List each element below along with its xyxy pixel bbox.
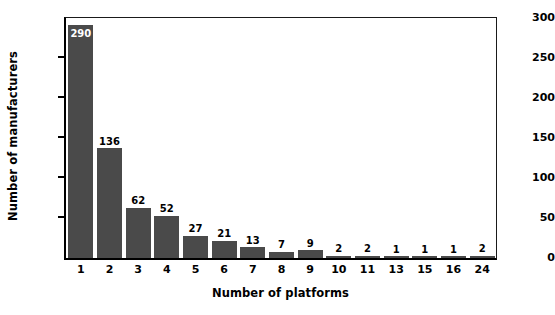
bar-slot: 21 <box>210 17 239 258</box>
bar[interactable] <box>126 208 151 258</box>
bar[interactable] <box>68 25 93 257</box>
x-tick-label-16: 16 <box>439 264 468 276</box>
bar-value-label: 62 <box>124 195 153 206</box>
x-tick-label-10: 10 <box>325 264 354 276</box>
bar-slot: 13 <box>239 17 268 258</box>
x-tick-label-6: 6 <box>210 264 239 276</box>
x-tick-label-5: 5 <box>181 264 210 276</box>
bar-value-label: 2 <box>353 243 382 254</box>
bar[interactable] <box>441 256 466 258</box>
bar[interactable] <box>326 256 351 258</box>
bar-slot: 7 <box>267 17 296 258</box>
x-tick-label-11: 11 <box>353 264 382 276</box>
y-tick-label-300: 300 <box>503 12 555 23</box>
bar-slot: 136 <box>95 17 124 258</box>
bar[interactable] <box>355 256 380 258</box>
plot-area: 290136625227211379221112 <box>67 17 497 258</box>
x-tick-label-2: 2 <box>95 264 124 276</box>
bar-slot: 1 <box>439 17 468 258</box>
bar[interactable] <box>384 256 409 258</box>
bar[interactable] <box>470 256 495 258</box>
bar-value-label: 290 <box>67 28 96 39</box>
y-tick-label-100: 100 <box>503 172 555 183</box>
x-axis-title: Number of platforms <box>64 286 497 300</box>
x-tick-label-24: 24 <box>468 264 497 276</box>
x-tick-label-1: 1 <box>67 264 96 276</box>
bar-slot: 62 <box>124 17 153 258</box>
bar[interactable] <box>183 236 208 258</box>
bar-chart-figure: Number of manufacturers Number of platfo… <box>0 0 555 315</box>
bar-value-label: 2 <box>325 243 354 254</box>
bar-value-label: 9 <box>296 238 325 249</box>
bar-value-label: 1 <box>382 244 411 255</box>
bar-value-label: 2 <box>468 243 497 254</box>
bar[interactable] <box>240 247 265 257</box>
bar[interactable] <box>97 148 122 257</box>
bar-value-label: 1 <box>411 244 440 255</box>
bar-value-label: 136 <box>95 136 124 147</box>
x-tick-label-3: 3 <box>124 264 153 276</box>
bar[interactable] <box>154 216 179 258</box>
y-tick-label-200: 200 <box>503 92 555 103</box>
x-tick-label-4: 4 <box>153 264 182 276</box>
bar-value-label: 13 <box>239 235 268 246</box>
bar-value-label: 27 <box>181 223 210 234</box>
y-tick-label-0: 0 <box>503 252 555 263</box>
bar-slot: 290 <box>67 17 96 258</box>
bar-slot: 9 <box>296 17 325 258</box>
bar[interactable] <box>269 252 294 258</box>
bar-slot: 52 <box>153 17 182 258</box>
bar[interactable] <box>298 250 323 257</box>
y-tick-label-50: 50 <box>503 212 555 223</box>
bar-slot: 2 <box>353 17 382 258</box>
x-tick-label-15: 15 <box>411 264 440 276</box>
x-tick-label-9: 9 <box>296 264 325 276</box>
bar-value-label: 1 <box>439 244 468 255</box>
x-tick-label-13: 13 <box>382 264 411 276</box>
bar-slot: 1 <box>411 17 440 258</box>
x-tick-label-7: 7 <box>239 264 268 276</box>
bar-value-label: 52 <box>153 203 182 214</box>
bar-slot: 1 <box>382 17 411 258</box>
bar-slot: 27 <box>181 17 210 258</box>
bar-slot: 2 <box>468 17 497 258</box>
y-tick-label-150: 150 <box>503 132 555 143</box>
bar[interactable] <box>412 256 437 258</box>
x-tick-label-8: 8 <box>267 264 296 276</box>
bar-value-label: 7 <box>267 239 296 250</box>
bar[interactable] <box>212 241 237 258</box>
bar-slot: 2 <box>325 17 354 258</box>
bar-value-label: 21 <box>210 228 239 239</box>
y-axis-title: Number of manufacturers <box>4 6 22 266</box>
y-tick-label-250: 250 <box>503 52 555 63</box>
